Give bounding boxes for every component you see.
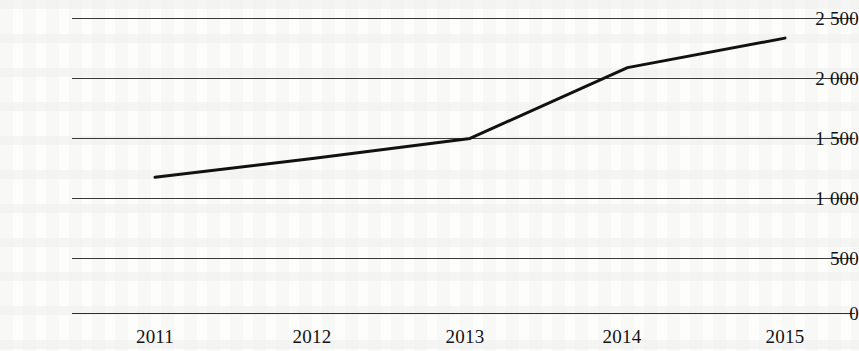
data-series-line — [155, 38, 785, 177]
x-tick-label-2014: 2014 — [577, 327, 667, 346]
plot-area: 2 500 2 000 1 500 1 000 500 0 2011 2012 … — [0, 0, 859, 351]
x-tick-label-2011: 2011 — [110, 327, 200, 346]
series-layer — [0, 0, 859, 351]
line-chart: 2 500 2 000 1 500 1 000 500 0 2011 2012 … — [0, 0, 859, 351]
x-tick-label-2015: 2015 — [740, 327, 830, 346]
x-tick-label-2013: 2013 — [420, 327, 510, 346]
x-tick-label-2012: 2012 — [267, 327, 357, 346]
